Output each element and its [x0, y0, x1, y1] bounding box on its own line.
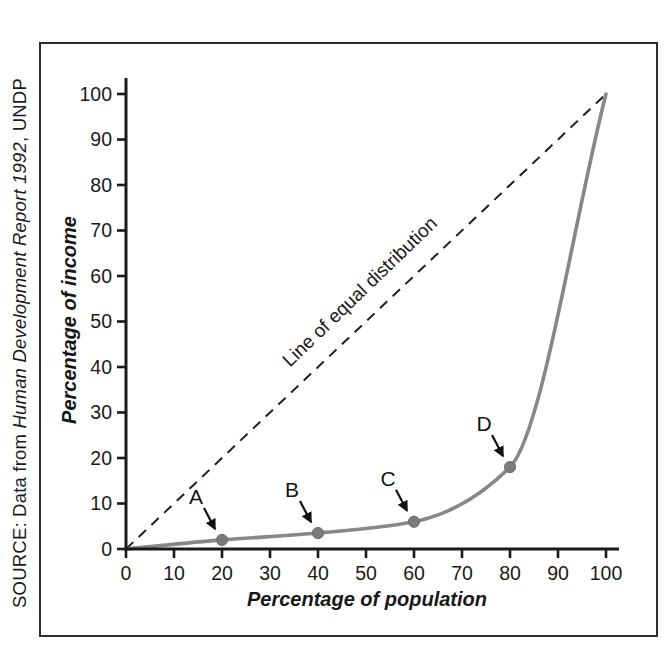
y-axis-title: Percentage of income [58, 216, 81, 424]
data-point-B [312, 527, 323, 538]
axes [126, 78, 619, 549]
source-note-suffix: , UNDP [9, 78, 30, 142]
y-tick-label-90: 90 [90, 128, 112, 150]
point-arrow-D [492, 435, 503, 456]
y-tick-label-10: 10 [90, 492, 112, 514]
source-note-prefix: SOURCE: Data from [9, 429, 30, 608]
y-tick-label-80: 80 [90, 174, 112, 196]
data-point-C [408, 516, 419, 527]
x-axis-title: Percentage of population [127, 588, 607, 611]
x-tick-label-10: 10 [163, 562, 185, 584]
x-tick-label-0: 0 [121, 562, 132, 584]
y-tick-label-60: 60 [90, 265, 112, 287]
y-tick-label-30: 30 [90, 401, 112, 423]
x-tick-label-50: 50 [355, 562, 377, 584]
point-arrow-C [396, 490, 407, 511]
y-tick-label-100: 100 [79, 83, 112, 105]
x-tick-label-70: 70 [451, 562, 473, 584]
source-note-report-title: Human Development Report 1992 [9, 142, 30, 429]
x-tick-label-100: 100 [590, 562, 623, 584]
y-tick-label-0: 0 [101, 538, 112, 560]
y-tick-label-50: 50 [90, 310, 112, 332]
x-tick-label-40: 40 [307, 562, 329, 584]
y-tick-label-20: 20 [90, 447, 112, 469]
point-label-B: B [285, 478, 299, 501]
x-tick-label-30: 30 [259, 562, 281, 584]
x-tick-label-60: 60 [403, 562, 425, 584]
point-arrow-B [300, 501, 311, 522]
x-tick-label-80: 80 [499, 562, 521, 584]
data-point-D [504, 462, 515, 473]
y-tick-label-40: 40 [90, 356, 112, 378]
point-label-D: D [476, 412, 491, 435]
lorenz-curve-figure: 0102030405060708090100010203040506070809… [0, 0, 672, 657]
y-tick-label-70: 70 [90, 219, 112, 241]
x-tick-label-90: 90 [547, 562, 569, 584]
equal-distribution-line [126, 94, 606, 549]
point-label-C: C [380, 467, 395, 490]
source-note: SOURCE: Data from Human Development Repo… [9, 78, 31, 608]
point-arrow-A [204, 508, 215, 529]
x-tick-label-20: 20 [211, 562, 233, 584]
point-label-A: A [189, 485, 203, 508]
data-point-A [216, 534, 227, 545]
